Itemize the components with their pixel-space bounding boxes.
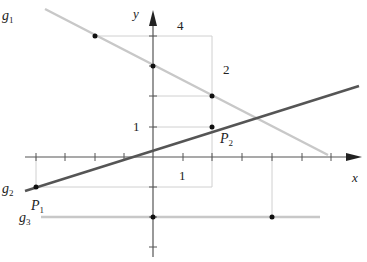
point-g1-a <box>93 34 98 39</box>
label-g3: g3 <box>19 210 31 227</box>
label-g1: g1 <box>2 8 14 25</box>
y-axis <box>149 10 157 257</box>
point-p2 <box>210 125 215 130</box>
x-axis <box>25 153 362 161</box>
label-p1: P1 <box>30 198 44 215</box>
x-axis-arrow-icon <box>346 153 362 161</box>
run-label-4: 4 <box>177 18 184 33</box>
y-axis-label: y <box>131 6 139 21</box>
line-g2 <box>25 86 359 191</box>
point-p1 <box>34 185 39 190</box>
point-g3-b <box>270 215 275 220</box>
label-g2: g2 <box>2 181 14 198</box>
label-p2: P2 <box>219 131 233 148</box>
point-g3-intercept <box>151 215 156 220</box>
x-unit-label: 1 <box>179 168 186 183</box>
coordinate-diagram: g1 g2 g3 P1 P2 y x 4 2 1 1 <box>0 0 367 262</box>
point-g1-b <box>210 94 215 99</box>
y-axis-arrow-icon <box>149 10 157 26</box>
x-axis-label: x <box>351 170 358 185</box>
y-unit-label: 1 <box>133 119 140 134</box>
rise-label-2: 2 <box>223 62 230 77</box>
line-g1 <box>45 9 328 155</box>
point-g1-intercept <box>151 64 156 69</box>
